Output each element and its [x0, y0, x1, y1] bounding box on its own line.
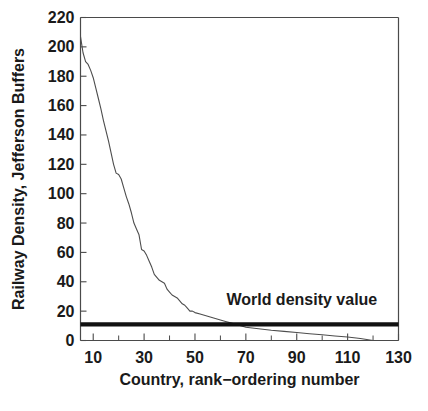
y-axis-title: Railway Density, Jefferson Buffers	[10, 48, 27, 310]
x-axis-title: Country, rank−ordering number	[119, 371, 359, 388]
x-tick-label: 10	[84, 349, 102, 366]
y-tick-label: 180	[48, 68, 75, 85]
y-tick-label: 140	[48, 126, 75, 143]
x-tick-labels: 1030507090110130	[84, 349, 412, 366]
x-tick-label: 130	[385, 349, 412, 366]
y-tick-labels: 020406080100120140160180200220	[48, 9, 75, 349]
chart-figure: Railway Density, Jefferson Buffers Count…	[0, 0, 428, 411]
x-tick-label: 110	[335, 349, 361, 366]
y-tick-label: 100	[48, 185, 75, 202]
y-tick-label: 220	[48, 9, 75, 26]
y-tick-label: 40	[57, 273, 75, 290]
world-density-annotation: World density value	[226, 291, 377, 308]
x-tick-label: 30	[135, 349, 153, 366]
y-tick-label: 160	[48, 97, 75, 114]
y-tick-label: 60	[57, 244, 75, 261]
y-tick-label: 0	[66, 332, 75, 349]
railway-density-line-chart: Railway Density, Jefferson Buffers Count…	[0, 0, 428, 411]
x-tick-label: 90	[288, 349, 306, 366]
y-axis-ticks	[81, 18, 87, 341]
y-tick-label: 20	[57, 303, 75, 320]
y-tick-label: 120	[48, 156, 75, 173]
y-tick-label: 200	[48, 38, 75, 55]
y-axis-title-group: Railway Density, Jefferson Buffers	[10, 48, 27, 310]
y-tick-label: 80	[57, 215, 75, 232]
x-axis-ticks	[93, 334, 398, 341]
x-tick-label: 70	[237, 349, 255, 366]
x-tick-label: 50	[186, 349, 204, 366]
